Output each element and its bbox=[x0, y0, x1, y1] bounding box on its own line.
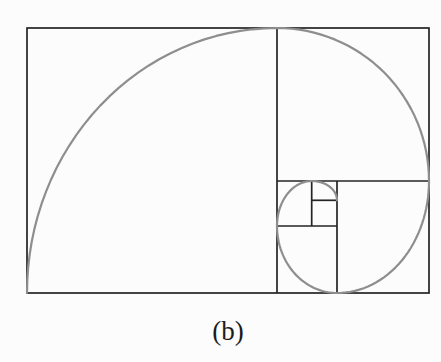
outer-rectangle bbox=[27, 28, 429, 293]
spiral-curve bbox=[27, 28, 429, 293]
golden-spiral-diagram bbox=[0, 0, 441, 310]
figure-page: (b) bbox=[0, 0, 441, 362]
figure-caption: (b) bbox=[27, 316, 429, 346]
